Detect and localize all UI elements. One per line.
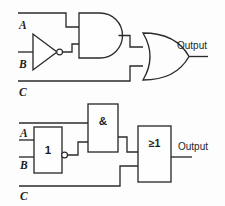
label-input-a-top: A bbox=[18, 19, 27, 31]
bottom-circuit-group: 1 & ≥1 A B C Output bbox=[19, 104, 208, 202]
logic-circuit-diagram: A B C Output 1 & bbox=[0, 0, 225, 206]
inverter-triangle-icon bbox=[33, 34, 57, 70]
wire-input-c-top bbox=[18, 66, 143, 81]
inverter-bubble-icon bbox=[57, 49, 63, 55]
label-input-c-bottom: C bbox=[20, 190, 28, 202]
or-box-label: ≥1 bbox=[149, 137, 161, 149]
label-input-b-top: B bbox=[18, 58, 27, 70]
and-box-icon bbox=[88, 104, 118, 152]
or-box-icon bbox=[138, 126, 171, 182]
label-input-b-bottom: B bbox=[19, 159, 28, 171]
label-input-c-top: C bbox=[19, 86, 27, 98]
and-box-label: & bbox=[99, 115, 107, 127]
wire-input-a-top bbox=[18, 13, 79, 27]
inverter-box-label: 1 bbox=[45, 144, 52, 156]
wire-notb-to-and bbox=[63, 44, 79, 52]
inverter-box-bubble-icon bbox=[62, 152, 68, 158]
label-output-bottom: Output bbox=[178, 141, 208, 152]
wire-andbox-to-orbox bbox=[118, 137, 138, 152]
and-gate-icon bbox=[79, 13, 123, 58]
top-circuit-group: A B C Output bbox=[18, 13, 208, 98]
wire-inverterbox-to-andbox bbox=[68, 142, 88, 155]
label-output-top: Output bbox=[177, 40, 207, 51]
label-input-a-bottom: A bbox=[19, 127, 28, 139]
